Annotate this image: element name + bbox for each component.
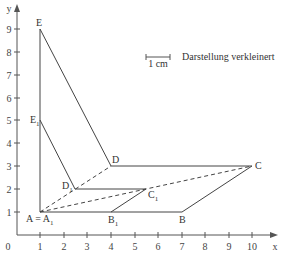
label-A: A = A1 bbox=[26, 213, 54, 227]
svg-text:6: 6 bbox=[7, 93, 12, 104]
svg-text:10: 10 bbox=[247, 241, 257, 252]
coordinate-diagram: 0 1 2 3 4 5 6 7 8 9 10 x 1 2 3 4 5 6 7 8… bbox=[0, 0, 281, 256]
svg-text:5: 5 bbox=[133, 241, 138, 252]
svg-text:5: 5 bbox=[7, 115, 12, 126]
label-E1: E1 bbox=[30, 114, 40, 128]
label-C: C bbox=[255, 160, 262, 171]
x-tick-labels: 0 1 2 3 4 5 6 7 8 9 10 x bbox=[6, 241, 278, 252]
svg-text:2: 2 bbox=[62, 241, 67, 252]
label-B1: B1 bbox=[108, 214, 119, 228]
svg-text:7: 7 bbox=[7, 70, 12, 81]
svg-text:1: 1 bbox=[38, 241, 43, 252]
svg-text:4: 4 bbox=[109, 241, 114, 252]
svg-text:2: 2 bbox=[7, 184, 12, 195]
svg-text:3: 3 bbox=[85, 241, 90, 252]
svg-text:0: 0 bbox=[6, 241, 11, 252]
y-axis-arrow-icon bbox=[14, 4, 20, 12]
svg-text:8: 8 bbox=[203, 241, 208, 252]
svg-text:4: 4 bbox=[7, 138, 12, 149]
scale-note: Darstellung verkleinert bbox=[182, 51, 275, 62]
x-axis-arrow-icon bbox=[270, 232, 278, 238]
svg-text:x: x bbox=[273, 241, 278, 252]
svg-text:1: 1 bbox=[7, 207, 12, 218]
point-labels: E E1 D D1 C1 C B B1 A = A1 bbox=[26, 17, 262, 228]
label-D: D bbox=[112, 154, 119, 165]
svg-text:9: 9 bbox=[227, 241, 232, 252]
svg-text:7: 7 bbox=[180, 241, 185, 252]
axes bbox=[17, 8, 275, 235]
svg-text:6: 6 bbox=[156, 241, 161, 252]
label-C1: C1 bbox=[148, 189, 159, 203]
svg-text:3: 3 bbox=[7, 161, 12, 172]
svg-text:8: 8 bbox=[7, 47, 12, 58]
svg-text:y: y bbox=[7, 3, 12, 14]
svg-text:9: 9 bbox=[7, 24, 12, 35]
label-E: E bbox=[36, 17, 42, 28]
y-tick-labels: 1 2 3 4 5 6 7 8 9 y bbox=[7, 3, 12, 218]
label-B: B bbox=[179, 214, 186, 225]
scale-label: 1 cm bbox=[148, 58, 168, 69]
